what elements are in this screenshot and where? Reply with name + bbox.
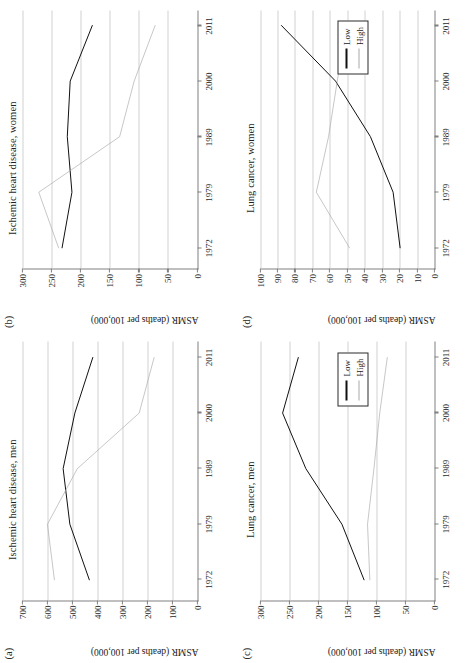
- panel-b-title: Ischemic heart disease, women: [6, 6, 17, 330]
- panel-c-plot-area: 05010015020025030019721979198920002011 L…: [260, 342, 436, 602]
- series-layer: [22, 10, 197, 269]
- legend-label-low: Low: [341, 28, 351, 45]
- y-tick-label: 200: [313, 600, 323, 619]
- y-tick-label: 250: [46, 269, 56, 288]
- x-tick-label: 1989: [197, 459, 213, 477]
- legend-item-high: High: [354, 358, 364, 400]
- y-tick-label: 200: [75, 269, 85, 288]
- series-line-high: [367, 357, 387, 579]
- y-tick-label: 10: [412, 269, 422, 283]
- panel-a-yaxis-title: ASMR (deaths per 100,000): [0, 653, 198, 663]
- x-tick-label: 1979: [434, 183, 450, 201]
- y-tick-label: 500: [67, 600, 77, 619]
- x-tick-label: 2000: [434, 72, 450, 90]
- series-layer: [22, 342, 197, 601]
- panel-c-yaxis-title: ASMR (deaths per 100,000): [238, 653, 436, 663]
- y-tick-label: 250: [284, 600, 294, 619]
- legend-item-high: High: [354, 26, 364, 68]
- panel-d-yaxis-title: ASMR (deaths per 100,000): [238, 322, 436, 336]
- x-tick-label: 2011: [434, 17, 450, 35]
- panel-b-yaxis-label: ASMR (deaths per 100,000): [90, 315, 198, 325]
- y-tick-label: 100: [167, 600, 177, 619]
- legend-swatch-low-icon: [345, 380, 347, 400]
- y-tick-label: 100: [371, 600, 381, 619]
- figure-grid: (a) Ischemic heart disease, men ASMR (de…: [0, 0, 475, 663]
- y-tick-label: 50: [400, 600, 410, 614]
- y-tick-label: 40: [359, 269, 369, 283]
- panel-a-plot-area: 0100200300400500600700197219791989200020…: [22, 342, 198, 602]
- y-tick-label: 0: [192, 600, 202, 610]
- legend-label-high: High: [354, 358, 364, 376]
- y-tick-label: 20: [394, 269, 404, 283]
- panel-c: (c) Lung cancer, men ASMR (deaths per 10…: [238, 332, 475, 663]
- panel-b-plot-area: 05010015020025030019721979198920002011: [22, 10, 198, 270]
- figure-rotator: (a) Ischemic heart disease, men ASMR (de…: [0, 0, 475, 663]
- panel-d-yaxis-label: ASMR (deaths per 100,000): [327, 315, 435, 325]
- panel-a-title: Ischemic heart disease, men: [6, 338, 17, 662]
- x-tick-label: 1979: [197, 515, 213, 533]
- panel-a-axes: 0100200300400500600700197219791989200020…: [22, 342, 198, 602]
- y-tick-label: 30: [377, 269, 387, 283]
- y-tick-label: 300: [17, 269, 27, 288]
- x-tick-label: 1972: [197, 570, 213, 588]
- y-tick-label: 0: [429, 269, 439, 279]
- x-tick-label: 2011: [197, 17, 213, 35]
- y-tick-label: 150: [342, 600, 352, 619]
- y-tick-label: 600: [42, 600, 52, 619]
- legend-item-low: Low: [341, 358, 351, 400]
- y-tick-label: 150: [104, 269, 114, 288]
- legend-label-low: Low: [341, 359, 351, 376]
- y-tick-label: 50: [162, 269, 172, 283]
- panel-d-plot-area: 0102030405060708090100197219791989200020…: [260, 10, 436, 270]
- x-tick-label: 1989: [434, 128, 450, 146]
- x-tick-label: 2000: [197, 72, 213, 90]
- y-tick-label: 90: [272, 269, 282, 283]
- panel-d: (d) Lung cancer, women ASMR (deaths per …: [238, 0, 475, 332]
- series-line-high: [38, 26, 154, 248]
- y-tick-label: 80: [289, 269, 299, 283]
- y-tick-label: 300: [117, 600, 127, 619]
- x-tick-label: 1989: [197, 128, 213, 146]
- x-tick-label: 1989: [434, 459, 450, 477]
- legend-swatch-high-icon: [358, 48, 359, 68]
- x-tick-label: 1972: [434, 570, 450, 588]
- x-tick-label: 1972: [197, 239, 213, 257]
- x-tick-label: 1979: [197, 183, 213, 201]
- panel-b: (b) Ischemic heart disease, women ASMR (…: [0, 0, 238, 332]
- y-tick-label: 700: [17, 600, 27, 619]
- legend-swatch-high-icon: [358, 380, 359, 400]
- panel-d-title: Lung cancer, women: [244, 6, 255, 330]
- x-tick-label: 1979: [434, 515, 450, 533]
- legend-label-high: High: [354, 26, 364, 44]
- x-tick-label: 1972: [434, 239, 450, 257]
- x-tick-label: 2000: [434, 404, 450, 422]
- x-tick-label: 2011: [434, 348, 450, 366]
- y-tick-label: 0: [192, 269, 202, 279]
- panel-c-title: Lung cancer, men: [244, 338, 255, 662]
- x-tick-label: 2000: [197, 404, 213, 422]
- y-tick-label: 0: [429, 600, 439, 610]
- x-tick-label: 2011: [197, 348, 213, 366]
- panel-b-axes: 05010015020025030019721979198920002011: [22, 10, 198, 270]
- series-line-low: [62, 26, 92, 248]
- panel-c-legend: Low High: [337, 352, 368, 406]
- legend-item-low: Low: [341, 26, 351, 68]
- y-tick-label: 60: [324, 269, 334, 283]
- panel-c-yaxis-label: ASMR (deaths per 100,000): [327, 646, 435, 656]
- panel-a: (a) Ischemic heart disease, men ASMR (de…: [0, 332, 238, 663]
- panel-a-yaxis-label: ASMR (deaths per 100,000): [90, 646, 198, 656]
- y-tick-label: 100: [255, 269, 265, 288]
- panel-d-legend: Low High: [337, 20, 368, 74]
- y-tick-label: 300: [255, 600, 265, 619]
- y-tick-label: 70: [307, 269, 317, 283]
- y-tick-label: 100: [133, 269, 143, 288]
- y-tick-label: 400: [92, 600, 102, 619]
- panel-b-yaxis-title: ASMR (deaths per 100,000): [0, 322, 198, 336]
- y-tick-label: 50: [342, 269, 352, 283]
- legend-swatch-low-icon: [345, 48, 347, 68]
- y-tick-label: 200: [142, 600, 152, 619]
